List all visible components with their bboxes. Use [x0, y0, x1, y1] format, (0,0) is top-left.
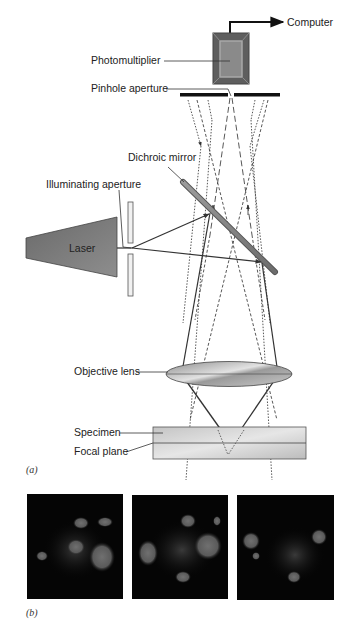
specimen: [153, 427, 306, 459]
micrograph-2: [132, 495, 228, 599]
photomultiplier-label: Photomultiplier: [91, 54, 161, 66]
laser-label: Laser: [69, 242, 96, 254]
focal-plane-label: Focal plane: [74, 445, 128, 457]
dichroic-mirror-label: Dichroic mirror: [128, 151, 197, 163]
computer-label: Computer: [287, 16, 334, 28]
computer-output-arrow: [230, 22, 283, 33]
panel-a-caption: (a): [26, 464, 38, 476]
illuminating-aperture-label: Illuminating aperture: [46, 178, 141, 190]
photomultiplier: [213, 33, 249, 84]
dichroic-leader: [168, 167, 184, 182]
objective-lens: [166, 362, 292, 387]
specimen-label: Specimen: [74, 426, 121, 438]
focal-plane-leader: [126, 443, 153, 452]
illuminating-aperture: [128, 202, 133, 296]
pinhole-aperture-label: Pinhole aperture: [91, 82, 168, 94]
objective-lens-label: Objective lens: [74, 365, 140, 377]
panel-b-caption: (b): [26, 607, 38, 619]
confocal-diagram: Computer Photomultiplier Pinhole apertur…: [0, 0, 348, 635]
micrograph-3: [237, 495, 334, 600]
micrograph-1: [27, 494, 123, 599]
